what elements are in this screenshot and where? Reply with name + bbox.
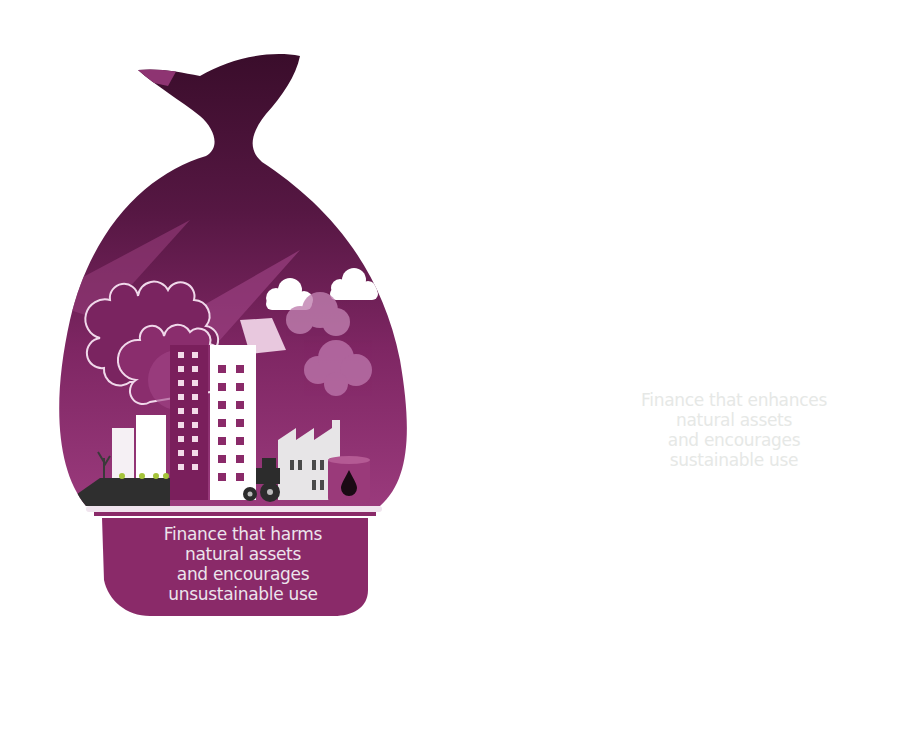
right-pan-label-line: and encourages (612, 430, 856, 450)
office-building-icon (170, 345, 208, 500)
office-building-icon (210, 345, 256, 500)
right-pan-label-line: Finance that enhances (612, 390, 856, 410)
right-pan-label-line: natural assets (612, 410, 856, 430)
right-pan-label-line: sustainable use (612, 450, 856, 470)
left-money-bag (40, 54, 407, 506)
left-pan-rim (86, 506, 382, 512)
right-pan-label: Finance that enhances natural assets and… (612, 390, 856, 470)
left-pan-label-line: and encourages (128, 564, 358, 584)
left-pan-label-line: natural assets (128, 544, 358, 564)
left-pan-label-line: Finance that harms (128, 524, 358, 544)
left-pan-label-line: unsustainable use (128, 584, 358, 604)
balance-infographic: Finance that harms natural assets and en… (0, 0, 915, 748)
oil-barrel-icon (328, 456, 370, 502)
left-pan-label: Finance that harms natural assets and en… (128, 524, 358, 604)
